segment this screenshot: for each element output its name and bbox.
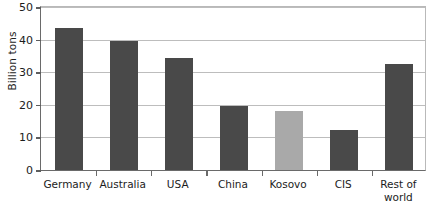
x-label-germany: Germany <box>40 178 95 191</box>
x-tick-4 <box>262 170 263 176</box>
gridline-0: 0 <box>41 170 425 171</box>
x-label-rest-of-world-line2: world <box>384 191 413 203</box>
x-tick-1 <box>96 170 97 176</box>
y-tick-label-50: 50 <box>19 1 33 14</box>
x-tick-3 <box>206 170 207 176</box>
x-label-rest-of-world-line1: Rest of <box>380 178 416 190</box>
y-tick-label-40: 40 <box>19 33 33 46</box>
x-tick-5 <box>317 170 318 176</box>
y-tick-0 <box>36 170 41 172</box>
y-tick-label-30: 30 <box>19 66 33 79</box>
bar-chart: Billion tons 50 40 30 20 10 0 <box>0 0 434 207</box>
x-label-cis: CIS <box>316 178 371 191</box>
x-label-kosovo: Kosovo <box>261 178 316 191</box>
x-axis-labels: Germany Australia USA China Kosovo CIS R… <box>40 178 426 207</box>
x-ticks-group <box>41 7 425 170</box>
y-tick-label-20: 20 <box>19 98 33 111</box>
x-label-rest-of-world: Rest of world <box>371 178 426 204</box>
x-label-usa: USA <box>150 178 205 191</box>
x-label-china: China <box>205 178 260 191</box>
y-tick-label-0: 0 <box>26 164 33 177</box>
plot-area: 50 40 30 20 10 0 <box>40 6 426 171</box>
x-tick-2 <box>151 170 152 176</box>
y-axis-title: Billion tons <box>6 6 18 116</box>
x-label-australia: Australia <box>95 178 150 191</box>
y-tick-label-10: 10 <box>19 131 33 144</box>
x-tick-6 <box>372 170 373 176</box>
